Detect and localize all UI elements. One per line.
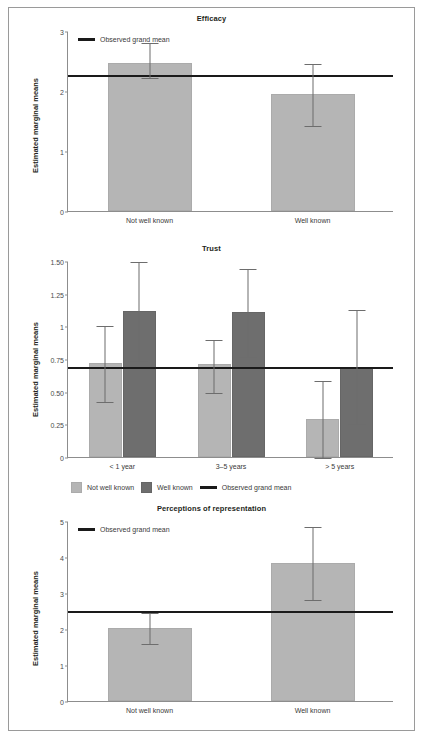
error-bar-cap-upper <box>240 269 257 270</box>
error-bar-cap-lower <box>314 458 331 459</box>
y-axis-tick-mark <box>65 458 68 459</box>
error-bar-3-5-years-not-well-known <box>198 340 231 392</box>
error-bar-1-year-well-known <box>123 262 156 361</box>
chart-legend-grand-mean[interactable]: Observed grand mean <box>78 36 170 43</box>
y-axis-tick-mark <box>65 702 68 703</box>
error-bar-stem <box>105 326 106 402</box>
error-bar-cap-lower <box>97 402 114 403</box>
legend-swatch-line <box>78 528 95 531</box>
y-axis-tick-mark <box>65 262 68 263</box>
legend-label-grand-mean: Observed grand mean <box>100 36 170 43</box>
legend-swatch-light <box>71 482 82 493</box>
error-bar-cap-lower <box>206 393 223 394</box>
legend-label-grand-mean: Observed grand mean <box>100 526 170 533</box>
x-axis-tick-label-not-well-known: Not well known <box>126 217 173 224</box>
error-bar-cap-lower <box>131 361 148 362</box>
plot-area-perceptions: 012345Not well knownWell knownObserved g… <box>67 522 393 702</box>
error-bar-cap-lower <box>141 644 158 645</box>
error-bar-stem <box>356 310 357 424</box>
error-bar-stem <box>214 340 215 392</box>
error-bar-well-known <box>271 64 355 125</box>
chart-legend-trust: Not well known Well known Observed grand… <box>71 482 291 493</box>
y-axis-tick-mark <box>65 425 68 426</box>
error-bar-cap-lower <box>304 600 321 601</box>
error-bar-not-well-known <box>108 613 192 644</box>
y-axis-tick-mark <box>65 92 68 93</box>
figure-frame: Efficacy Estimated marginal means 0123No… <box>8 7 415 731</box>
x-axis-tick-label-3-5-years: 3–5 years <box>216 463 247 470</box>
chart-panel-perceptions: Perceptions of representation Estimated … <box>9 498 414 732</box>
y-axis-tick-mark <box>65 522 68 523</box>
error-bar-stem <box>322 381 323 458</box>
error-bar-stem <box>139 262 140 361</box>
legend-item-grand-mean[interactable]: Observed grand mean <box>200 484 292 491</box>
legend-label-well-known: Well known <box>157 484 193 491</box>
legend-label-not-well-known: Not well known <box>87 484 134 491</box>
legend-item-not-well-known[interactable]: Not well known <box>71 482 134 493</box>
y-axis-tick-mark <box>65 594 68 595</box>
chart-panel-trust: Trust Estimated marginal means 00.250.50… <box>9 240 414 490</box>
error-bar-3-5-years-well-known <box>232 269 265 358</box>
error-bar-1-year-not-well-known <box>89 326 122 402</box>
legend-label-grand-mean: Observed grand mean <box>222 484 292 491</box>
y-axis-tick-mark <box>65 392 68 393</box>
error-bar-cap-upper <box>206 340 223 341</box>
error-bar-cap-upper <box>141 613 158 614</box>
error-bar-stem <box>149 43 150 78</box>
chart-title-trust: Trust <box>9 244 414 253</box>
error-bar-stem <box>149 613 150 644</box>
error-bar-cap-upper <box>131 262 148 263</box>
x-axis-tick-label-5-years: > 5 years <box>325 463 354 470</box>
y-axis-tick-mark <box>65 666 68 667</box>
error-bar-cap-lower <box>141 78 158 79</box>
error-bar-not-well-known <box>108 43 192 78</box>
error-bar-cap-upper <box>348 310 365 311</box>
error-bar-5-years-not-well-known <box>306 381 339 458</box>
legend-swatch-dark <box>141 482 152 493</box>
error-bar-cap-upper <box>314 381 331 382</box>
error-bar-5-years-well-known <box>340 310 373 424</box>
error-bar-cap-lower <box>304 126 321 127</box>
bar-not-well-known[interactable] <box>108 63 192 211</box>
chart-title-efficacy: Efficacy <box>9 14 414 23</box>
y-axis-tick-mark <box>65 558 68 559</box>
x-axis-tick-label-well-known: Well known <box>295 707 331 714</box>
chart-title-perceptions: Perceptions of representation <box>9 504 414 513</box>
error-bar-stem <box>248 269 249 358</box>
y-axis-tick-mark <box>65 327 68 328</box>
chart-legend-grand-mean[interactable]: Observed grand mean <box>78 526 170 533</box>
plot-area-efficacy: 0123Not well knownWell knownObserved gra… <box>67 32 393 212</box>
y-axis-label-efficacy: Estimated marginal means <box>31 78 40 173</box>
y-axis-tick-mark <box>65 294 68 295</box>
y-axis-tick-mark <box>65 152 68 153</box>
x-axis-tick-label-well-known: Well known <box>295 217 331 224</box>
error-bar-stem <box>312 64 313 125</box>
y-axis-tick-mark <box>65 32 68 33</box>
error-bar-stem <box>312 527 313 600</box>
error-bar-cap-lower <box>348 424 365 425</box>
error-bar-cap-upper <box>304 64 321 65</box>
y-axis-tick-mark <box>65 630 68 631</box>
y-axis-label-trust: Estimated marginal means <box>31 322 40 417</box>
legend-swatch-line <box>200 486 217 489</box>
x-axis-tick-label-not-well-known: Not well known <box>126 707 173 714</box>
error-bar-cap-upper <box>141 43 158 44</box>
y-axis-label-perceptions: Estimated marginal means <box>31 571 40 666</box>
legend-item-well-known[interactable]: Well known <box>141 482 193 493</box>
chart-panel-efficacy: Efficacy Estimated marginal means 0123No… <box>9 8 414 248</box>
error-bar-cap-lower <box>240 357 257 358</box>
error-bar-well-known <box>271 527 355 600</box>
y-axis-tick-mark <box>65 212 68 213</box>
error-bar-cap-upper <box>304 527 321 528</box>
y-axis-tick-mark <box>65 360 68 361</box>
legend-swatch-line <box>78 38 95 41</box>
error-bar-cap-upper <box>97 326 114 327</box>
plot-area-trust: 00.250.500.7511.251.50< 1 year3–5 years>… <box>67 262 393 458</box>
x-axis-tick-label-1-year: < 1 year <box>110 463 136 470</box>
